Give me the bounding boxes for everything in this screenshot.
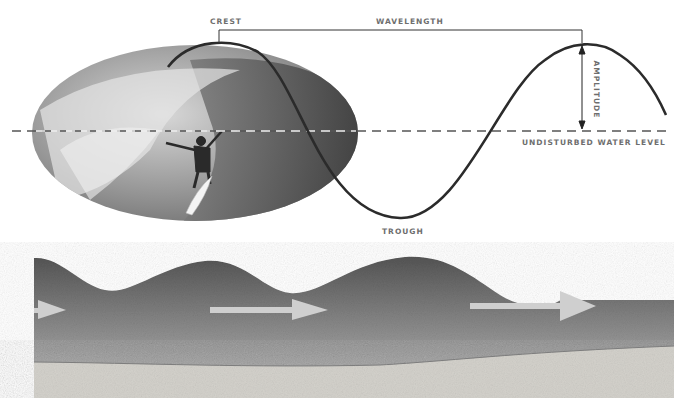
crest-label: CREST <box>210 17 242 26</box>
wavelength-label: WAVELENGTH <box>376 17 444 26</box>
wavelength-bracket <box>219 30 582 43</box>
trough-label: TROUGH <box>382 227 424 236</box>
ocean-cross-section <box>34 257 674 398</box>
amplitude-label: AMPLITUDE <box>592 60 601 120</box>
amplitude-arrow <box>579 46 585 129</box>
undisturbed-water-level-label: UNDISTURBED WATER LEVEL <box>522 138 666 147</box>
wave-diagram <box>0 0 674 398</box>
surfer-photo <box>30 40 360 225</box>
